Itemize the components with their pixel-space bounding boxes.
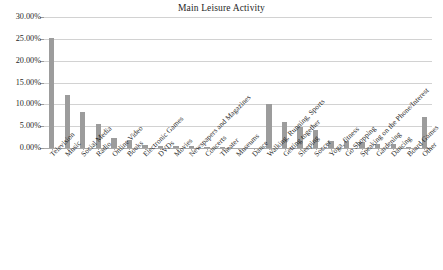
- leisure-activity-bar-chart: Main Leisure Activity 0.00%5.00%10.00%15…: [0, 0, 443, 270]
- bar: [49, 38, 54, 148]
- y-axis-tick-label: 5.00%: [0, 121, 41, 130]
- y-axis-tick-label: 15.00%: [0, 78, 41, 87]
- y-axis-tick-label: 0.00%: [0, 143, 41, 152]
- y-axis-tick-label: 25.00%: [0, 34, 41, 43]
- y-axis-tick-label: 20.00%: [0, 56, 41, 65]
- chart-title: Main Leisure Activity: [0, 3, 443, 13]
- y-axis-tick-label: 10.00%: [0, 99, 41, 108]
- y-axis-tick-label: 30.00%: [0, 12, 41, 21]
- x-axis-labels-group: TelevisionMusicSocial MediaRadioOnline V…: [44, 149, 443, 270]
